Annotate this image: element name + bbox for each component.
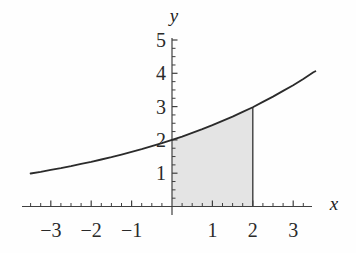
x-axis-label: x (329, 193, 339, 214)
y-tick-label: 4 (156, 62, 166, 84)
y-tick-label: 3 (156, 96, 166, 118)
x-tick-label: −2 (81, 219, 102, 241)
figure: −3−2−1123 12345 x y (0, 0, 356, 253)
x-tick-label: 1 (207, 219, 217, 241)
y-tick-labels: 12345 (156, 29, 166, 184)
y-tick-label: 5 (156, 29, 166, 51)
x-tick-label: −1 (121, 219, 142, 241)
plot-canvas: −3−2−1123 12345 x y (0, 0, 356, 253)
shaded-area-under-curve (172, 107, 253, 206)
x-axis (22, 201, 312, 207)
y-tick-label: 2 (156, 129, 166, 151)
x-tick-label: 3 (288, 219, 298, 241)
shaded-region (172, 107, 253, 206)
y-axis-label: y (168, 5, 179, 26)
y-tick-label: 1 (156, 162, 166, 184)
x-tick-label: −3 (40, 219, 61, 241)
x-tick-label: 2 (248, 219, 258, 241)
x-tick-labels: −3−2−1123 (40, 219, 298, 241)
